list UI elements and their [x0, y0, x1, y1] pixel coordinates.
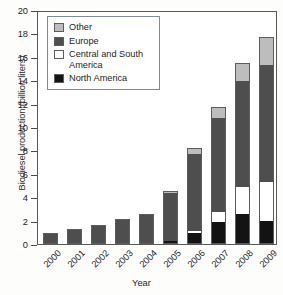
y-tick-label: 0 [0, 240, 28, 250]
x-tick-label: 2006 [179, 248, 207, 276]
bar-2004 [139, 214, 154, 244]
legend-label: North America [69, 73, 127, 84]
y-tick-label: 18 [0, 29, 28, 39]
legend-swatch-icon [54, 37, 64, 46]
chart-legend: OtherEuropeCentral and South AmericaNort… [47, 16, 160, 90]
bar-2005 [163, 191, 178, 244]
bar-2003 [115, 219, 130, 244]
y-tick-label: 8 [0, 146, 28, 156]
bar-segment [163, 193, 178, 241]
legend-label: Other [69, 22, 92, 33]
y-tick-label: 4 [0, 193, 28, 203]
y-tick-label: 2 [0, 217, 28, 227]
bar-segment [211, 222, 226, 244]
legend-item: Europe [54, 36, 154, 47]
legend-item: Other [54, 22, 154, 33]
bar-2006 [187, 148, 202, 244]
y-tick-mark [31, 245, 37, 246]
x-tick-label: 2005 [155, 248, 183, 276]
bar-segment [235, 63, 250, 82]
bar-segment [139, 214, 154, 244]
bar-2008 [235, 63, 250, 244]
legend-swatch-icon [54, 23, 64, 32]
bar-segment [43, 233, 58, 244]
x-axis-label: Year [0, 278, 283, 288]
y-tick-label: 14 [0, 76, 28, 86]
legend-item: North America [54, 73, 154, 84]
legend-swatch-icon [54, 50, 64, 59]
x-tick-label: 2002 [83, 248, 111, 276]
y-tick-label: 10 [0, 123, 28, 133]
bar-segment [187, 154, 202, 231]
bar-2001 [67, 229, 82, 244]
y-tick-label: 20 [0, 6, 28, 16]
bar-segment [211, 212, 226, 221]
x-tick-label: 2009 [251, 248, 279, 276]
bar-segment [259, 65, 274, 182]
legend-label: Europe [69, 36, 99, 47]
bar-segment [259, 182, 274, 221]
legend-swatch-icon [54, 74, 64, 83]
bar-segment [91, 225, 106, 244]
legend-item: Central and South America [54, 49, 154, 70]
bar-segment [259, 37, 274, 65]
bar-segment [187, 233, 202, 244]
x-tick-label: 2003 [107, 248, 135, 276]
x-tick-label: 2004 [131, 248, 159, 276]
bar-segment [211, 118, 226, 213]
y-tick-label: 16 [0, 53, 28, 63]
bar-segment [235, 187, 250, 214]
x-tick-label: 2001 [59, 248, 87, 276]
y-tick-label: 12 [0, 100, 28, 110]
biodiesel-production-chart: Biodiesel production (billion liters) 02… [0, 0, 283, 295]
bar-segment [235, 81, 250, 186]
bar-segment [259, 221, 274, 244]
bar-segment [235, 214, 250, 244]
x-tick-label: 2007 [203, 248, 231, 276]
bar-segment [67, 229, 82, 244]
bar-segment [115, 219, 130, 244]
legend-label: Central and South America [69, 49, 154, 70]
bar-segment [163, 241, 178, 245]
x-tick-label: 2008 [227, 248, 255, 276]
bar-2000 [43, 233, 58, 244]
bar-segment [211, 107, 226, 118]
y-tick-label: 6 [0, 170, 28, 180]
bar-2009 [259, 37, 274, 244]
bar-2007 [211, 107, 226, 244]
x-tick-label: 2000 [35, 248, 63, 276]
bar-2002 [91, 225, 106, 244]
